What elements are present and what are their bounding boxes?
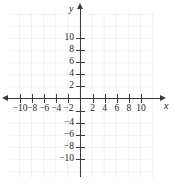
x-axis-tick	[93, 94, 94, 103]
y-axis-tick	[76, 123, 85, 124]
y-axis-tick	[76, 38, 85, 39]
x-axis-arrow-left-icon	[2, 95, 8, 101]
x-axis-label: x	[164, 101, 168, 111]
x-axis-line	[6, 98, 162, 99]
y-axis-tick-label: 2	[69, 82, 74, 92]
y-axis-tick-label: −6	[64, 130, 74, 140]
y-axis-tick	[76, 86, 85, 87]
background-grid	[8, 12, 155, 178]
y-axis-tick-label: 6	[69, 57, 74, 67]
coordinate-plane-figure: −10−8−6−4−2246810 108642−4−6−8−10 x y	[0, 0, 177, 184]
x-axis-tick	[129, 94, 130, 103]
x-axis-tick	[141, 94, 142, 103]
y-axis-tick	[76, 159, 85, 160]
x-axis-tick	[105, 94, 106, 103]
y-axis-arrow-up-icon	[77, 3, 83, 9]
x-axis-tick	[32, 94, 33, 103]
x-axis-tick-label: −10	[13, 104, 28, 114]
x-axis-tick-label: 2	[90, 104, 95, 114]
y-axis-tick	[76, 50, 85, 51]
x-axis-tick-label: −6	[39, 104, 49, 114]
x-axis-tick-label: 10	[136, 104, 146, 114]
y-axis-tick	[76, 62, 85, 63]
x-axis-tick-label: −2	[63, 104, 73, 114]
x-axis-tick-label: 4	[102, 104, 107, 114]
x-axis-tick-label: −8	[27, 104, 37, 114]
x-axis-tick	[44, 94, 45, 103]
x-axis-tick	[117, 94, 118, 103]
x-axis-tick	[68, 94, 69, 103]
y-axis-tick-label: −4	[64, 118, 74, 128]
y-axis-line	[80, 8, 81, 177]
y-axis-label: y	[69, 4, 73, 14]
y-axis-tick	[76, 74, 85, 75]
y-axis-tick-label: 10	[65, 33, 75, 43]
x-axis-tick-label: −4	[51, 104, 61, 114]
y-axis-tick-label: 4	[69, 70, 74, 80]
x-axis-tick-label: 8	[127, 104, 132, 114]
y-axis-tick-label: 8	[69, 45, 74, 55]
y-axis-tick-label: −8	[64, 142, 74, 152]
x-axis-tick	[20, 94, 21, 103]
y-axis-tick	[76, 147, 85, 148]
x-axis-tick-label: 6	[114, 104, 119, 114]
y-axis-tick-label: −10	[59, 154, 74, 164]
y-axis-tick	[76, 111, 85, 112]
y-axis-tick	[76, 135, 85, 136]
x-axis-tick	[56, 94, 57, 103]
